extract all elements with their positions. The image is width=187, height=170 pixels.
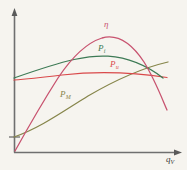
curve-label-p-m: PM [60, 90, 71, 99]
curve-label-p-m-symbol: P [60, 89, 66, 99]
curve-label-eta: η [104, 20, 108, 29]
curve-label-p-u: Pu [110, 60, 119, 69]
curve-label-p-u-symbol: P [110, 59, 116, 69]
x-axis-label-symbol: q [166, 154, 171, 164]
plot-canvas [0, 0, 187, 170]
x-axis [14, 150, 182, 156]
curve-label-eta-symbol: η [104, 19, 108, 29]
x-axis-label: qV [166, 155, 174, 164]
curve-label-p-u-subscript: u [116, 64, 119, 70]
curve-label-p-m-subscript: M [66, 94, 71, 100]
curve-label-p-i-symbol: P [98, 43, 104, 53]
curve-label-p-i: Pi [98, 44, 105, 53]
pump-characteristic-figure: η Pi Pu PM qV [0, 0, 187, 170]
x-axis-label-subscript: V [171, 159, 175, 165]
curve-p-u [14, 73, 167, 80]
